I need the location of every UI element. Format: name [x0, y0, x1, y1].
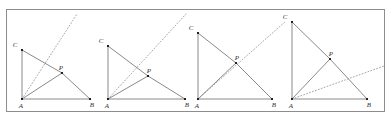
vertex-label-a: A — [194, 102, 200, 110]
vertex-label-c: C — [99, 37, 104, 45]
vertex-label-c: C — [283, 13, 288, 21]
vertex-label-b: B — [272, 101, 277, 109]
vertex-label-a: A — [288, 102, 294, 110]
vertex-label-a: A — [104, 102, 110, 110]
vertex-label-p: P — [58, 64, 64, 72]
vertex-dot-a — [197, 98, 199, 100]
vertex-dot-b — [89, 98, 91, 100]
vertex-dot-p — [61, 72, 63, 74]
vertex-dot-c — [291, 21, 293, 23]
vertex-label-p: P — [234, 54, 240, 62]
geometry-figure: ABCPABCPABCPABCP — [0, 0, 391, 121]
vertex-dot-p — [147, 75, 149, 77]
vertex-label-c: C — [13, 41, 18, 49]
vertex-dot-c — [107, 45, 109, 47]
vertex-label-p: P — [146, 67, 152, 75]
vertex-label-a: A — [18, 102, 24, 110]
vertex-dot-p — [235, 62, 237, 64]
vertex-dot-c — [197, 32, 199, 34]
vertex-dot-b — [184, 98, 186, 100]
vertex-label-b: B — [367, 101, 372, 109]
vertex-dot-a — [107, 98, 109, 100]
vertex-dot-a — [291, 98, 293, 100]
vertex-dot-c — [21, 49, 23, 51]
figure-frame — [7, 10, 385, 112]
vertex-dot-a — [21, 98, 23, 100]
vertex-label-p: P — [328, 50, 334, 58]
vertex-dot-p — [329, 58, 331, 60]
vertex-label-b: B — [90, 101, 95, 109]
diagram-canvas: ABCPABCPABCPABCP — [0, 0, 391, 121]
vertex-label-c: C — [189, 24, 194, 32]
vertex-dot-b — [271, 98, 273, 100]
vertex-label-b: B — [185, 101, 190, 109]
vertex-dot-b — [366, 98, 368, 100]
